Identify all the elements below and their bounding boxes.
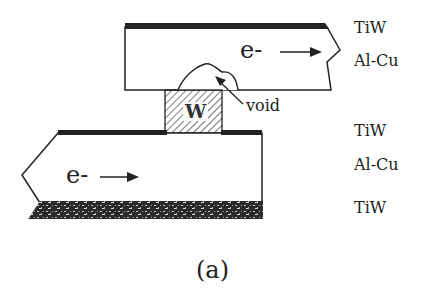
layer-label-upper-al-cu: Al-Cu xyxy=(354,53,399,69)
w-via-label: W xyxy=(183,102,208,121)
lower-al-cu-body xyxy=(22,133,262,203)
void-label: void xyxy=(246,98,280,114)
upper-electron-label: e- xyxy=(240,38,262,62)
upper-tiw-layer xyxy=(125,23,329,29)
lower-top-tiw-left xyxy=(58,130,167,135)
figure-caption: (a) xyxy=(196,258,229,282)
layer-label-lower-al-cu: Al-Cu xyxy=(354,157,399,173)
layer-label-lower-bottom-tiw: TiW xyxy=(354,200,386,216)
layer-label-upper-tiw: TiW xyxy=(354,20,386,36)
layer-label-lower-top-tiw: TiW xyxy=(354,123,386,139)
lower-bottom-tiw-layer xyxy=(28,201,263,219)
lower-metal-line xyxy=(22,130,263,219)
lower-top-tiw-right xyxy=(221,130,262,135)
lower-electron-label: e- xyxy=(66,163,88,187)
